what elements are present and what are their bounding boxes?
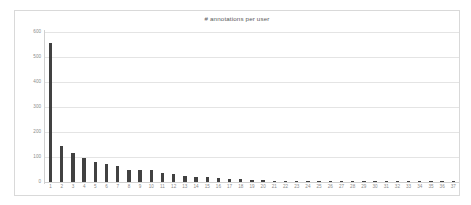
x-axis-tick-label: 35	[425, 185, 436, 190]
bar-slot	[269, 32, 280, 182]
bar[interactable]	[429, 181, 432, 182]
bar-slot	[224, 32, 235, 182]
bar[interactable]	[217, 178, 220, 182]
chart-title: # annotations per user	[15, 15, 459, 22]
x-axis-tick-label: 3	[67, 185, 78, 190]
bar-slot	[168, 32, 179, 182]
bar[interactable]	[127, 170, 130, 182]
x-axis-tick-label: 30	[369, 185, 380, 190]
bar[interactable]	[71, 153, 74, 182]
bar-slot	[45, 32, 56, 182]
bar-slot	[358, 32, 369, 182]
bar[interactable]	[49, 43, 52, 182]
x-axis-tick-label: 18	[235, 185, 246, 190]
x-axis-tick-label: 25	[314, 185, 325, 190]
bar-slot	[135, 32, 146, 182]
bar[interactable]	[407, 181, 410, 182]
bar-slot	[235, 32, 246, 182]
bar-slot	[425, 32, 436, 182]
y-axis-tick-label: 400	[17, 80, 41, 85]
bar-slot	[280, 32, 291, 182]
bar[interactable]	[340, 181, 343, 182]
bar-slot	[146, 32, 157, 182]
bar[interactable]	[385, 181, 388, 182]
x-axis-tick-label: 12	[168, 185, 179, 190]
bar[interactable]	[172, 174, 175, 183]
bar[interactable]	[261, 180, 264, 182]
bar[interactable]	[250, 180, 253, 182]
chart-frame: # annotations per user 01002003004005006…	[14, 10, 460, 196]
bar[interactable]	[206, 177, 209, 182]
x-axis-tick-label: 8	[123, 185, 134, 190]
bar-slot	[190, 32, 201, 182]
bar[interactable]	[138, 170, 141, 182]
bar[interactable]	[82, 158, 85, 182]
y-axis-tick-label: 200	[17, 130, 41, 135]
bar-slot	[112, 32, 123, 182]
bar-slot	[314, 32, 325, 182]
bar[interactable]	[362, 181, 365, 182]
bar-series	[45, 32, 459, 182]
bar-slot	[79, 32, 90, 182]
x-axis-tick-label: 36	[437, 185, 448, 190]
bar-slot	[347, 32, 358, 182]
x-axis-tick-label: 2	[56, 185, 67, 190]
x-axis-tick-label: 26	[325, 185, 336, 190]
bar[interactable]	[329, 181, 332, 182]
bar[interactable]	[239, 179, 242, 182]
bar-slot	[369, 32, 380, 182]
bar[interactable]	[351, 181, 354, 182]
x-axis-tick-label: 27	[336, 185, 347, 190]
bar[interactable]	[284, 181, 287, 182]
bar[interactable]	[440, 181, 443, 182]
x-axis-tick-label: 4	[79, 185, 90, 190]
bar[interactable]	[94, 162, 97, 183]
bar[interactable]	[396, 181, 399, 182]
x-axis-tick-labels: 1234567891011121314151617181920212223242…	[45, 185, 459, 190]
bar[interactable]	[295, 181, 298, 182]
bar-slot	[392, 32, 403, 182]
bar[interactable]	[306, 181, 309, 182]
bar-slot	[56, 32, 67, 182]
bar[interactable]	[452, 181, 455, 182]
bar[interactable]	[183, 176, 186, 183]
x-axis-tick-label: 11	[157, 185, 168, 190]
x-axis-tick-label: 33	[403, 185, 414, 190]
bar-slot	[90, 32, 101, 182]
bar-slot	[302, 32, 313, 182]
bar-slot	[202, 32, 213, 182]
y-axis-tick-label: 600	[17, 30, 41, 35]
bar[interactable]	[273, 181, 276, 182]
x-axis-tick-label: 1	[45, 185, 56, 190]
x-axis-tick-label: 24	[302, 185, 313, 190]
bar-slot	[246, 32, 257, 182]
bar-slot	[67, 32, 78, 182]
x-axis-tick-label: 31	[381, 185, 392, 190]
bar-slot	[291, 32, 302, 182]
bar[interactable]	[228, 179, 231, 182]
x-axis-tick-label: 7	[112, 185, 123, 190]
x-axis-tick-label: 32	[392, 185, 403, 190]
x-axis-tick-label: 23	[291, 185, 302, 190]
y-axis-tick-label: 500	[17, 55, 41, 60]
bar[interactable]	[194, 177, 197, 182]
bar[interactable]	[150, 170, 153, 182]
bar[interactable]	[116, 166, 119, 182]
plot-area	[45, 32, 459, 182]
x-axis-tick-label: 29	[358, 185, 369, 190]
x-axis-tick-label: 37	[448, 185, 459, 190]
bar[interactable]	[373, 181, 376, 182]
y-axis-tick-label: 0	[17, 180, 41, 185]
x-axis-tick-label: 14	[190, 185, 201, 190]
x-axis-tick-label: 22	[280, 185, 291, 190]
bar-slot	[437, 32, 448, 182]
bar[interactable]	[418, 181, 421, 182]
bar[interactable]	[317, 181, 320, 182]
bar-slot	[403, 32, 414, 182]
x-axis-tick-label: 20	[258, 185, 269, 190]
x-axis-tick-label: 5	[90, 185, 101, 190]
bar[interactable]	[105, 164, 108, 182]
bar[interactable]	[161, 173, 164, 183]
bar[interactable]	[60, 146, 63, 182]
y-axis-tick-label: 300	[17, 105, 41, 110]
